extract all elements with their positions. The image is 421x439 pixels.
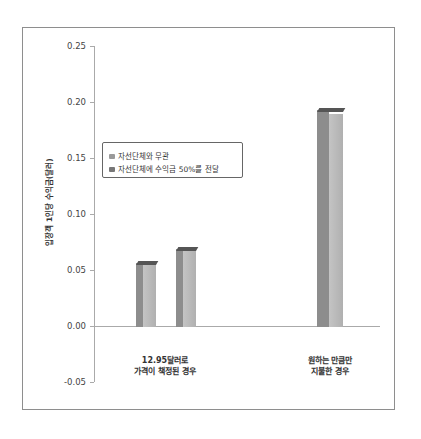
legend-label: 자선단체에 수익금 50%를 전달 [118, 165, 219, 174]
category-line: 가격이 책정된 경우 [120, 366, 210, 377]
bar-cat2-charity [317, 108, 344, 327]
y-tick-label: 0.20 [46, 97, 86, 107]
bar-cat1-unrelated [136, 261, 157, 327]
category-line: 원하는 만큼만 [290, 355, 370, 366]
y-tick-label: 0.15 [46, 153, 86, 163]
y-tick [90, 102, 94, 103]
bar-cat1-charity [176, 247, 197, 327]
legend-swatch-icon [109, 167, 115, 172]
y-axis-label: 입장객 1인당 수익금(달러) [43, 158, 54, 245]
chart-legend: 자선단체와 무관 자선단체에 수익금 50%를 전달 [102, 142, 243, 178]
y-tick [90, 158, 94, 159]
x-category-label-1: 12.95달러로 가격이 책정된 경우 [120, 355, 210, 377]
y-tick-label: -0.05 [46, 377, 86, 387]
y-tick [90, 46, 94, 47]
legend-swatch-icon [109, 154, 115, 159]
y-tick-label: 0.25 [46, 41, 86, 51]
y-tick-label: 0.00 [46, 321, 86, 331]
y-tick [90, 326, 94, 327]
y-tick [90, 214, 94, 215]
y-tick [90, 270, 94, 271]
x-category-label-2: 원하는 만큼만 지불한 경우 [290, 355, 370, 377]
legend-label: 자선단체와 무관 [118, 152, 169, 161]
y-axis-line [94, 46, 95, 382]
legend-item-charity: 자선단체에 수익금 50%를 전달 [109, 163, 219, 174]
y-tick-label: 0.10 [46, 209, 86, 219]
y-tick-label: 0.05 [46, 265, 86, 275]
category-line: 12.95달러로 [120, 355, 210, 366]
legend-item-unrelated: 자선단체와 무관 [109, 150, 169, 161]
category-line: 지불한 경우 [290, 366, 370, 377]
y-tick [90, 382, 94, 383]
